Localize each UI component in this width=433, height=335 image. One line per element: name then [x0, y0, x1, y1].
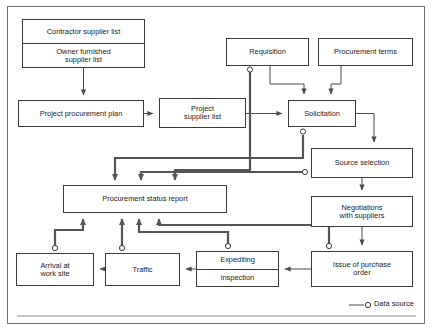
node-issue-of-purchase-order[interactable]: Issue of purchase order — [311, 251, 413, 287]
legend-label: Data source — [374, 299, 414, 308]
node-project-procurement-plan[interactable]: Project procurement plan — [18, 100, 144, 127]
node-label: Project procurement plan — [19, 101, 143, 126]
node-label: Issue of purchase order — [312, 252, 412, 286]
node-requisition[interactable]: Requisition — [226, 38, 309, 66]
node-cell-contractor-list: Contractor supplier list — [23, 20, 144, 43]
node-procurement-terms[interactable]: Procurement terms — [318, 38, 413, 66]
node-label: Project supplier list — [160, 99, 245, 127]
diagram-canvas: Contractor supplier list Owner furnished… — [0, 0, 433, 335]
node-arrival-at-work-site[interactable]: Arrival at work site — [16, 253, 94, 286]
node-label: Solicitation — [289, 101, 355, 126]
node-expediting-inspection[interactable]: Expediting inspection — [196, 251, 279, 287]
node-label: Procurement terms — [319, 39, 412, 65]
node-label: Traffic — [106, 254, 179, 285]
node-contractor-owner-supplier-list[interactable]: Contractor supplier list Owner furnished… — [22, 19, 145, 68]
node-negotiations-with-suppliers[interactable]: Negotiations with suppliers — [311, 196, 413, 227]
node-label: Requisition — [227, 39, 308, 65]
node-label: Source selection — [312, 149, 412, 177]
node-solicitation[interactable]: Solicitation — [288, 100, 356, 127]
node-procurement-status-report[interactable]: Procurement status report — [63, 185, 227, 213]
node-label: Procurement status report — [64, 186, 226, 212]
node-project-supplier-list[interactable]: Project supplier list — [159, 98, 246, 128]
node-label: Negotiations with suppliers — [312, 197, 412, 226]
node-source-selection[interactable]: Source selection — [311, 148, 413, 178]
node-cell-expediting: Expediting — [197, 252, 278, 269]
node-cell-inspection: inspection — [197, 269, 278, 287]
node-cell-owner-furnished-list: Owner furnished supplier list — [23, 43, 144, 67]
legend: Data source — [374, 299, 414, 308]
node-label: Arrival at work site — [17, 254, 93, 285]
node-traffic[interactable]: Traffic — [105, 253, 180, 286]
